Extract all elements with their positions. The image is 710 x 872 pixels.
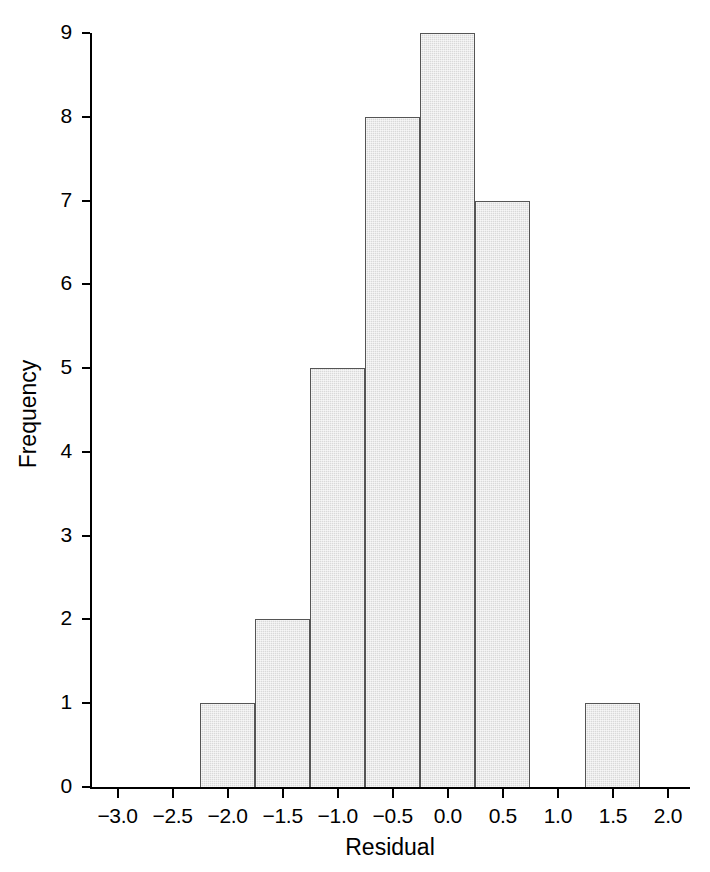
x-tick-7 [502, 789, 504, 798]
y-tick-label-text: 7 [32, 189, 72, 210]
x-tick-label: 2.0 [633, 803, 703, 829]
x-tick-3 [282, 789, 284, 798]
y-tick-label: 0 [32, 775, 76, 797]
y-tick-label: 1 [32, 691, 76, 713]
histogram-figure: 0123456789 −3.0−2.5−2.0−1.5−1.0−0.50.00.… [0, 0, 710, 872]
y-tick-label: 8 [32, 105, 76, 127]
y-tick-7 [82, 200, 90, 202]
y-tick-9 [82, 32, 90, 34]
plot-area [90, 33, 690, 787]
x-tick-5 [392, 789, 394, 798]
histogram-bar [200, 703, 255, 787]
x-tick-label-text: 2.0 [633, 803, 703, 829]
histogram-bar [310, 368, 365, 787]
x-tick-1 [172, 789, 174, 798]
y-tick-2 [82, 618, 90, 620]
y-tick-label: 3 [32, 524, 76, 546]
y-tick-4 [82, 451, 90, 453]
y-tick-label-text: 6 [32, 272, 72, 293]
y-tick-3 [82, 535, 90, 537]
x-tick-8 [557, 789, 559, 798]
y-tick-0 [82, 786, 90, 788]
y-tick-label-text: 1 [32, 691, 72, 712]
x-tick-6 [447, 789, 449, 798]
y-tick-1 [82, 702, 90, 704]
y-axis-label: Frequency [14, 324, 42, 504]
y-tick-label: 9 [32, 21, 76, 43]
y-tick-label-text: 9 [32, 21, 72, 42]
x-tick-0 [117, 789, 119, 798]
x-tick-10 [667, 789, 669, 798]
histogram-bar [420, 33, 475, 787]
x-tick-9 [612, 789, 614, 798]
y-tick-label-text: 8 [32, 105, 72, 126]
x-axis-label: Residual [90, 833, 690, 861]
histogram-bar [475, 201, 530, 787]
y-tick-label: 7 [32, 189, 76, 211]
histogram-bar [365, 117, 420, 787]
y-tick-6 [82, 283, 90, 285]
y-tick-5 [82, 367, 90, 369]
y-tick-label: 2 [32, 607, 76, 629]
y-tick-label-text: 0 [32, 775, 72, 796]
y-tick-label-text: 3 [32, 524, 72, 545]
x-axis-line [90, 787, 690, 789]
histogram-bar [585, 703, 640, 787]
histogram-bar [255, 619, 310, 787]
y-tick-label-text: 2 [32, 607, 72, 628]
y-tick-8 [82, 116, 90, 118]
y-tick-label: 6 [32, 272, 76, 294]
x-tick-2 [227, 789, 229, 798]
x-tick-4 [337, 789, 339, 798]
